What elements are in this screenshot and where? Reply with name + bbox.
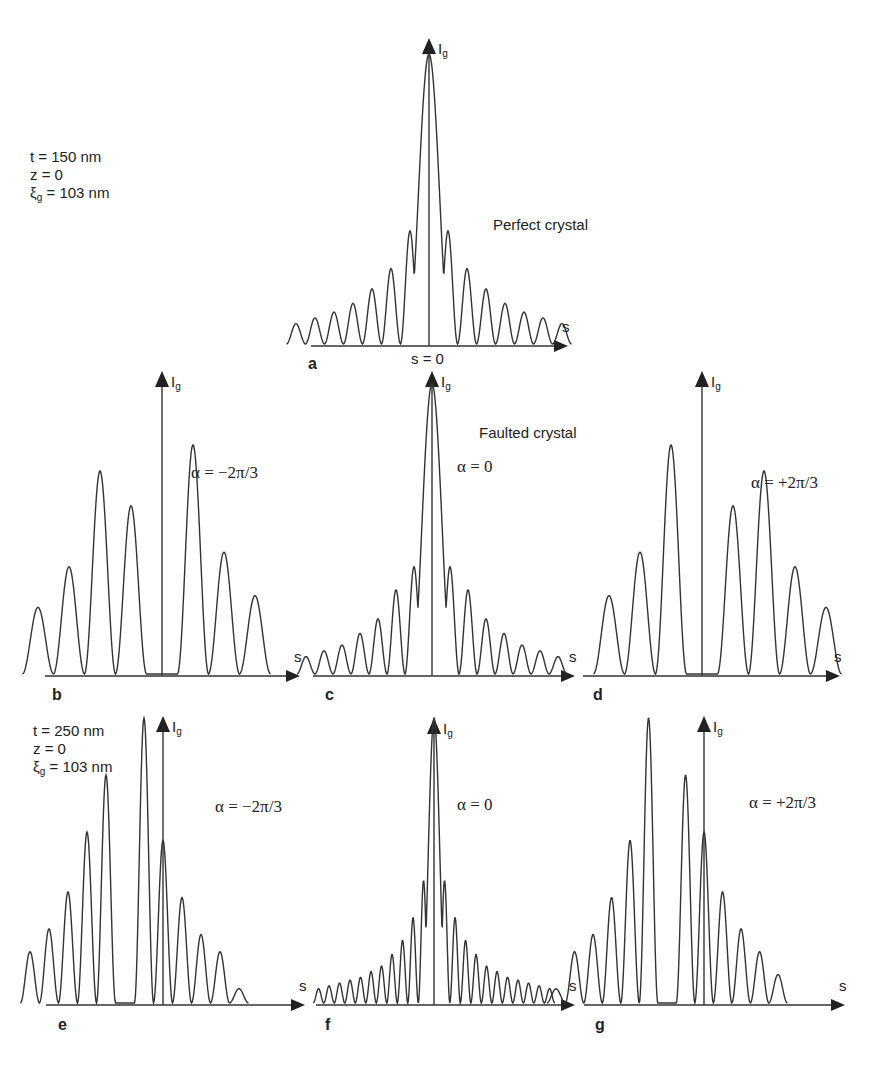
alpha-label-e: α = −2π/3 xyxy=(215,797,282,817)
alpha-label-b: α = −2π/3 xyxy=(191,463,258,483)
param-xi-bottom: ξg = 103 nm xyxy=(33,758,112,781)
y-axis-arrow-a xyxy=(422,38,436,54)
y-axis-label-g: Ig xyxy=(713,718,723,737)
y-axis-label-c: Ig xyxy=(441,373,451,392)
x-axis-arrow-a xyxy=(554,340,568,352)
alpha-label-c: α = 0 xyxy=(457,457,493,477)
panel-letter-f: f xyxy=(325,1016,330,1034)
x-axis-arrow-c xyxy=(561,670,575,682)
param-z-top: z = 0 xyxy=(30,166,63,184)
figure-plots xyxy=(0,0,878,1076)
x-axis-arrow-e xyxy=(291,999,305,1011)
heading-perfect-crystal: Perfect crystal xyxy=(493,216,588,234)
x-axis-label-b: s xyxy=(294,648,302,665)
param-xi-top: ξg = 103 nm xyxy=(30,184,109,207)
panel-letter-b: b xyxy=(52,686,62,704)
param-t-top: t = 150 nm xyxy=(30,148,101,166)
y-axis-arrow-e xyxy=(156,716,170,732)
y-axis-label-d: Ig xyxy=(711,373,721,392)
panel-letter-e: e xyxy=(58,1016,67,1034)
y-axis-arrow-b xyxy=(155,371,169,387)
x-axis-arrow-g xyxy=(831,999,845,1011)
s-zero-label: s = 0 xyxy=(411,350,444,367)
intensity-curve-g xyxy=(547,719,788,1004)
y-axis-label-f: Ig xyxy=(443,720,453,739)
panel-letter-c: c xyxy=(325,686,334,704)
x-axis-label-e: s xyxy=(299,977,307,994)
param-z-bottom: z = 0 xyxy=(33,740,66,758)
x-axis-label-a: s xyxy=(562,318,570,335)
x-axis-label-g: s xyxy=(839,977,847,994)
y-axis-label-b: Ig xyxy=(171,373,181,392)
x-axis-label-d: s xyxy=(834,648,842,665)
alpha-label-g: α = +2π/3 xyxy=(749,793,816,813)
x-axis-label-c: s xyxy=(569,648,577,665)
panel-letter-g: g xyxy=(595,1016,605,1034)
y-axis-arrow-g xyxy=(697,716,711,732)
alpha-label-f: α = 0 xyxy=(457,795,493,815)
x-axis-arrow-d xyxy=(826,670,840,682)
param-t-bottom: t = 250 nm xyxy=(33,722,104,740)
x-axis-arrow-b xyxy=(286,670,300,682)
x-axis-label-f: s xyxy=(569,977,577,994)
y-axis-label-e: Ig xyxy=(172,718,182,737)
panel-letter-d: d xyxy=(593,686,603,704)
y-axis-arrow-d xyxy=(695,371,709,387)
heading-faulted-crystal: Faulted crystal xyxy=(479,424,577,442)
panel-letter-a: a xyxy=(308,355,317,373)
alpha-label-d: α = +2π/3 xyxy=(751,473,818,493)
y-axis-label-a: Ig xyxy=(438,40,448,59)
